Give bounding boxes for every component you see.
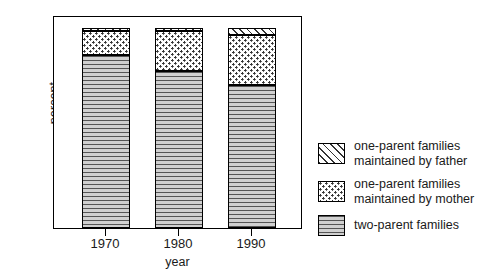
x-tick-mark-1970 [105,229,106,236]
bar-1980-segment-mother [155,31,203,71]
legend-item-two-parent: two-parent families [318,215,502,236]
bar-1990-segment-two-parent [228,85,276,228]
bar-1970-segment-two-parent [82,55,130,228]
x-tick-label-1970: 1970 [91,236,120,251]
bar-1990 [228,28,276,228]
bar-1980 [155,28,203,228]
bar-1970-segment-father [82,28,130,31]
horizontal-lines-swatch-icon [318,215,345,236]
legend-label-father: one-parent families maintained by father [354,139,467,168]
bar-1990-segment-mother [228,35,276,85]
x-axis-title: year [53,255,302,269]
x-tick-label-1980: 1980 [164,236,193,251]
chart-legend: one-parent families maintained by father… [318,139,502,245]
x-tick-label-1990: 1990 [237,236,266,251]
plot-area [53,16,302,229]
bar-1980-segment-two-parent [155,71,203,228]
y-axis: 100 80 60 40 20 0 [0,0,53,276]
diagonal-hatch-swatch-icon [318,143,345,164]
stacked-bar-chart: percent 100 80 60 40 20 0 [0,0,502,276]
legend-item-father: one-parent families maintained by father [318,139,502,168]
dots-swatch-icon [318,181,345,202]
legend-label-two-parent: two-parent families [354,218,459,233]
bar-1970 [82,28,130,228]
bar-1990-segment-father [228,28,276,35]
x-tick-mark-1990 [251,229,252,236]
legend-label-mother: one-parent families maintained by mother [354,177,474,206]
legend-item-mother: one-parent families maintained by mother [318,177,502,206]
x-tick-mark-1980 [178,229,179,236]
bar-1980-segment-father [155,28,203,31]
bar-1970-segment-mother [82,31,130,55]
